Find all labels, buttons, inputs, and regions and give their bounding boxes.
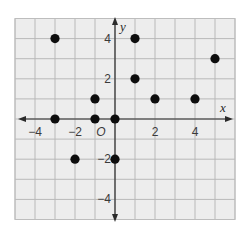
x-tick-label: −4	[28, 125, 42, 139]
y-axis-label: y	[118, 19, 126, 34]
data-point	[90, 94, 99, 103]
data-point	[110, 114, 119, 123]
coordinate-plane: x y O −4−22442−2−4	[0, 0, 250, 238]
data-point	[90, 114, 99, 123]
data-point	[150, 94, 159, 103]
x-axis-label: x	[219, 100, 226, 115]
data-point	[70, 155, 79, 164]
data-point	[210, 54, 219, 63]
y-tick-label: 4	[104, 32, 111, 46]
y-tick-label: 2	[104, 72, 111, 86]
origin-label: O	[96, 125, 105, 139]
data-point	[190, 94, 199, 103]
x-tick-label: 4	[192, 125, 199, 139]
data-point	[130, 74, 139, 83]
x-tick-label: −2	[68, 125, 82, 139]
data-point	[130, 34, 139, 43]
y-tick-label: −2	[97, 152, 111, 166]
y-tick-label: −4	[97, 192, 111, 206]
x-tick-label: 2	[152, 125, 159, 139]
data-point	[50, 34, 59, 43]
data-point	[110, 155, 119, 164]
data-point	[50, 114, 59, 123]
